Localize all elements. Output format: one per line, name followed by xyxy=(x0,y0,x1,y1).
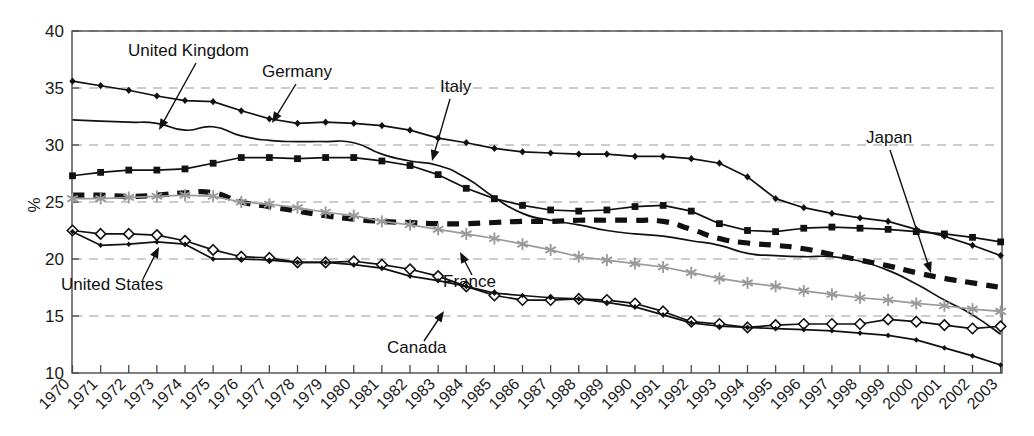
marker-italy-1989 xyxy=(603,207,610,214)
annotation-label-italy: Italy xyxy=(440,77,472,96)
marker-italy-1977 xyxy=(266,154,273,161)
marker-italy-2003 xyxy=(997,239,1004,246)
marker-italy-2001 xyxy=(941,231,948,238)
marker-italy-1994 xyxy=(744,227,751,234)
marker-italy-1976 xyxy=(238,154,245,161)
marker-italy-1970 xyxy=(69,172,76,179)
y-tick-label-35: 35 xyxy=(45,79,64,98)
marker-italy-1990 xyxy=(632,203,639,210)
marker-italy-1992 xyxy=(688,208,695,215)
marker-italy-1973 xyxy=(153,167,160,174)
marker-italy-1997 xyxy=(828,224,835,231)
chart-background xyxy=(0,0,1034,436)
marker-italy-1981 xyxy=(378,158,385,165)
annotation-label-united-kingdom: United Kingdom xyxy=(128,41,249,60)
marker-italy-1996 xyxy=(800,225,807,232)
marker-italy-1979 xyxy=(322,154,329,161)
marker-italy-2002 xyxy=(969,234,976,241)
marker-italy-1980 xyxy=(350,154,357,161)
line-chart-canvas: 10152025303540 % 19701971197219731974197… xyxy=(0,0,1034,436)
y-tick-label-25: 25 xyxy=(45,193,64,212)
marker-italy-1972 xyxy=(125,167,132,174)
marker-italy-1975 xyxy=(210,160,217,167)
y-tick-label-20: 20 xyxy=(45,250,64,269)
chart-figure: 10152025303540 % 19701971197219731974197… xyxy=(0,0,1034,436)
marker-italy-1999 xyxy=(885,226,892,233)
marker-italy-1982 xyxy=(407,162,414,169)
annotation-label-canada: Canada xyxy=(387,338,447,357)
marker-italy-1971 xyxy=(97,169,104,176)
marker-italy-1984 xyxy=(463,185,470,192)
y-tick-label-15: 15 xyxy=(45,307,64,326)
marker-italy-1978 xyxy=(294,155,301,162)
marker-italy-1988 xyxy=(575,208,582,215)
y-tick-label-40: 40 xyxy=(45,22,64,41)
marker-italy-1998 xyxy=(857,225,864,232)
annotation-label-france: France xyxy=(443,272,496,291)
y-tick-label-30: 30 xyxy=(45,136,64,155)
marker-italy-1986 xyxy=(519,202,526,209)
y-axis-title: % xyxy=(25,197,44,212)
annotation-label-germany: Germany xyxy=(262,62,332,81)
marker-italy-1993 xyxy=(716,220,723,227)
annotation-label-japan: Japan xyxy=(866,128,912,147)
marker-italy-1995 xyxy=(772,228,779,235)
marker-italy-1991 xyxy=(660,202,667,209)
annotation-label-united-states: United States xyxy=(61,275,163,294)
marker-italy-1974 xyxy=(182,166,189,173)
marker-italy-1983 xyxy=(435,171,442,178)
marker-italy-1987 xyxy=(547,207,554,214)
